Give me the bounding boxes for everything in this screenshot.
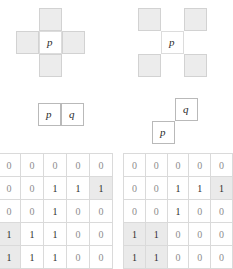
matrix-cell: 1 bbox=[44, 246, 67, 269]
neighbour-cell-northwest bbox=[138, 8, 161, 31]
matrix-cell: 0 bbox=[90, 223, 113, 246]
matrix-cell: 1 bbox=[211, 177, 233, 200]
pair-cell-label-p: p bbox=[160, 127, 166, 138]
neighbour-cell-south bbox=[39, 54, 62, 77]
matrix-cell: 1 bbox=[124, 223, 146, 246]
matrix-cell: 1 bbox=[44, 177, 67, 200]
matrix-cell: 0 bbox=[44, 154, 67, 177]
matrix-cell: 1 bbox=[90, 177, 113, 200]
matrix-cell: 0 bbox=[67, 223, 90, 246]
matrix-cell: 0 bbox=[167, 246, 189, 269]
matrix-cell: 0 bbox=[167, 223, 189, 246]
center-cell-label: p bbox=[47, 37, 53, 48]
diagonal-adjacency-pair-diagram: q p bbox=[152, 98, 198, 144]
pair-cell-label-p: p bbox=[46, 109, 52, 120]
neighbour-cell-southeast bbox=[184, 54, 207, 77]
matrix-cell: 1 bbox=[0, 223, 21, 246]
neighbour-cell-west bbox=[16, 31, 39, 54]
matrix-cell: 0 bbox=[211, 154, 233, 177]
matrix-row: 00000 bbox=[0, 154, 113, 177]
matrix-cell: 0 bbox=[0, 177, 21, 200]
matrix-row: 11000 bbox=[124, 246, 233, 269]
matrix-cell: 0 bbox=[189, 223, 211, 246]
matrix-cell: 1 bbox=[44, 223, 67, 246]
neighbour-cell-north bbox=[39, 8, 62, 31]
matrix-cell: 1 bbox=[145, 246, 167, 269]
matrix-cell: 0 bbox=[167, 154, 189, 177]
matrix-cell: 0 bbox=[145, 154, 167, 177]
matrix-row: 00100 bbox=[124, 200, 233, 223]
matrix-cell: 1 bbox=[44, 200, 67, 223]
matrix-cell: 0 bbox=[211, 223, 233, 246]
four-neighbourhood-diagram: p bbox=[16, 8, 85, 77]
matrix-cell: 0 bbox=[21, 154, 44, 177]
matrix-cell: 1 bbox=[21, 246, 44, 269]
matrix-cell: 1 bbox=[167, 177, 189, 200]
matrix-cell: 0 bbox=[90, 200, 113, 223]
horizontal-adjacency-pair-diagram: p q bbox=[38, 103, 84, 126]
matrix-cell: 0 bbox=[124, 200, 146, 223]
matrix-cell: 0 bbox=[67, 246, 90, 269]
matrix-cell: 0 bbox=[124, 154, 146, 177]
matrix-row: 11100 bbox=[0, 223, 113, 246]
neighbour-cell-southwest bbox=[138, 54, 161, 77]
matrix-cell: 1 bbox=[145, 223, 167, 246]
matrix-cell: 1 bbox=[67, 177, 90, 200]
left-binary-matrix: 0000000111001001110011100 bbox=[0, 153, 113, 269]
matrix-cell: 1 bbox=[167, 200, 189, 223]
matrix-cell: 0 bbox=[145, 200, 167, 223]
matrix-row: 11100 bbox=[0, 246, 113, 269]
matrix-cell: 0 bbox=[90, 246, 113, 269]
neighbour-cell-east bbox=[62, 31, 85, 54]
matrix-cell: 1 bbox=[0, 246, 21, 269]
matrix-row: 00111 bbox=[124, 177, 233, 200]
center-cell-label: p bbox=[169, 37, 175, 48]
matrix-cell: 1 bbox=[124, 246, 146, 269]
matrix-cell: 0 bbox=[0, 154, 21, 177]
matrix-cell: 0 bbox=[189, 154, 211, 177]
matrix-row: 00100 bbox=[0, 200, 113, 223]
matrix-cell: 0 bbox=[211, 200, 233, 223]
matrix-row: 11000 bbox=[124, 223, 233, 246]
matrix-cell: 0 bbox=[0, 200, 21, 223]
matrix-cell: 0 bbox=[90, 154, 113, 177]
matrix-cell: 1 bbox=[189, 177, 211, 200]
matrix-cell: 0 bbox=[21, 200, 44, 223]
matrix-row: 00000 bbox=[124, 154, 233, 177]
matrix-cell: 0 bbox=[189, 200, 211, 223]
matrix-row: 00111 bbox=[0, 177, 113, 200]
pair-cell-label-q: q bbox=[69, 109, 75, 120]
diagonal-neighbourhood-diagram: p bbox=[138, 8, 207, 77]
right-binary-matrix: 0000000111001001100011000 bbox=[123, 153, 233, 269]
matrix-cell: 0 bbox=[189, 246, 211, 269]
matrix-cell: 0 bbox=[145, 177, 167, 200]
matrix-cell: 1 bbox=[21, 223, 44, 246]
matrix-cell: 0 bbox=[67, 154, 90, 177]
matrix-cell: 0 bbox=[124, 177, 146, 200]
matrix-cell: 0 bbox=[67, 200, 90, 223]
matrix-cell: 0 bbox=[21, 177, 44, 200]
neighbour-cell-northeast bbox=[184, 8, 207, 31]
matrix-cell: 0 bbox=[211, 246, 233, 269]
pair-cell-label-q: q bbox=[183, 104, 189, 115]
